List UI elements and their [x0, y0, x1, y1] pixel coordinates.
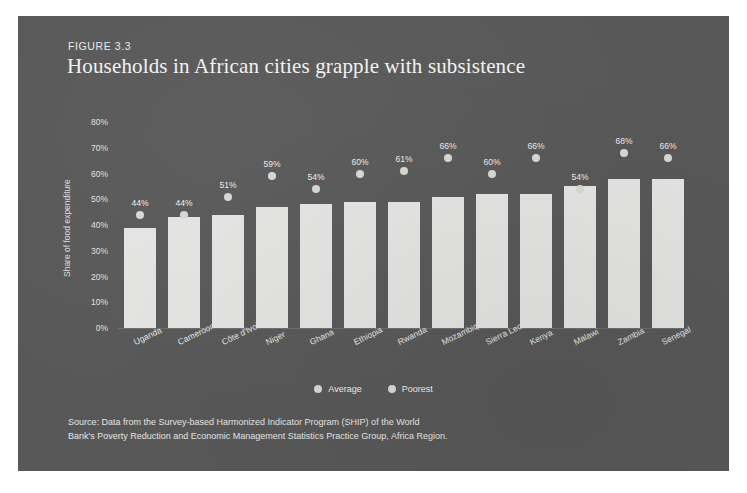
data-point-label: 66%: [659, 141, 676, 151]
bar: [344, 202, 376, 328]
data-point-dot: [532, 154, 540, 162]
y-axis-tick-label: 50%: [91, 195, 108, 204]
y-axis-tick-label: 30%: [91, 247, 108, 256]
y-axis-tick-label: 60%: [91, 169, 108, 178]
x-axis-tick-label: Niger: [264, 329, 287, 347]
y-axis-tick-label: 40%: [91, 221, 108, 230]
bar: [608, 179, 640, 328]
data-point-label: 60%: [351, 157, 368, 167]
bar: [476, 194, 508, 328]
data-point-label: 59%: [263, 159, 280, 169]
data-point-dot: [312, 185, 320, 193]
y-axis-tick-label: 70%: [91, 144, 108, 153]
data-point-label: 54%: [307, 172, 324, 182]
source-note: Source: Data from the Survey-based Harmo…: [68, 416, 628, 444]
bar: [256, 207, 288, 328]
data-point-dot: [620, 149, 628, 157]
data-point-dot: [136, 211, 144, 219]
legend-item-average[interactable]: Average: [314, 384, 361, 394]
data-point-label: 51%: [219, 180, 236, 190]
legend-label: Average: [328, 384, 361, 394]
bar: [168, 217, 200, 328]
source-line-1: Source: Data from the Survey-based Harmo…: [68, 416, 628, 430]
y-axis-title: Share of food expenditure: [62, 179, 72, 277]
x-axis-tick-label: Ghana: [308, 327, 335, 347]
data-point-label: 66%: [527, 141, 544, 151]
data-point-dot: [576, 185, 584, 193]
x-axis-tick-label: Malawi: [572, 326, 600, 347]
legend-label: Poorest: [402, 384, 433, 394]
data-point-label: 61%: [395, 154, 412, 164]
legend-item-poorest[interactable]: Poorest: [388, 384, 433, 394]
chart-legend: AveragePoorest: [18, 384, 729, 394]
data-point-label: 68%: [615, 136, 632, 146]
data-point-dot: [400, 167, 408, 175]
bar: [564, 186, 596, 328]
figure-panel: FIGURE 3.3 Households in African cities …: [18, 16, 729, 471]
bar: [388, 202, 420, 328]
data-point-label: 44%: [131, 198, 148, 208]
circle-icon: [388, 385, 396, 393]
x-axis-tick-label: Kenya: [528, 327, 554, 347]
data-point-label: 60%: [483, 157, 500, 167]
bar: [300, 204, 332, 328]
data-point-dot: [488, 170, 496, 178]
bar: [520, 194, 552, 328]
data-point-dot: [664, 154, 672, 162]
y-axis-tick-label: 10%: [91, 298, 108, 307]
data-point-dot: [224, 193, 232, 201]
y-axis-tick-label: 80%: [91, 118, 108, 127]
data-point-dot: [180, 211, 188, 219]
data-point-label: 54%: [571, 172, 588, 182]
y-axis-tick-label: 20%: [91, 272, 108, 281]
circle-icon: [314, 385, 322, 393]
data-point-label: 66%: [439, 141, 456, 151]
bar: [212, 215, 244, 328]
data-point-dot: [356, 170, 364, 178]
bar: [432, 197, 464, 328]
bar: [652, 179, 684, 328]
y-axis-tick-label: 0%: [96, 324, 108, 333]
data-point-dot: [268, 172, 276, 180]
data-point-dot: [444, 154, 452, 162]
source-line-2: Bank's Poverty Reduction and Economic Ma…: [68, 430, 628, 444]
data-point-label: 44%: [175, 198, 192, 208]
chart-plot-area: Share of food expenditure 0%10%20%30%40%…: [18, 16, 729, 471]
bar: [124, 228, 156, 328]
